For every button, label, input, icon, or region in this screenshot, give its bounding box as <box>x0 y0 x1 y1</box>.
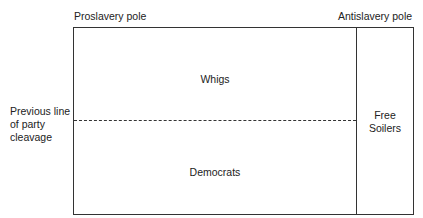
whigs-label: Whigs <box>74 73 356 86</box>
cleavage-label-line-2: of party <box>10 118 70 131</box>
antislavery-pole-label: Antislavery pole <box>338 10 412 23</box>
democrats-label: Democrats <box>74 166 356 179</box>
cleavage-label-line-3: cleavage <box>10 131 70 144</box>
free-soilers-line-1: Free <box>357 109 413 122</box>
free-soilers-line-2: Soilers <box>357 122 413 135</box>
cleavage-label-line-1: Previous line <box>10 105 70 118</box>
proslavery-pole-label: Proslavery pole <box>74 10 146 23</box>
previous-cleavage-line <box>74 120 356 121</box>
cleavage-label: Previous line of party cleavage <box>10 105 70 144</box>
free-soilers-label: Free Soilers <box>357 109 413 135</box>
